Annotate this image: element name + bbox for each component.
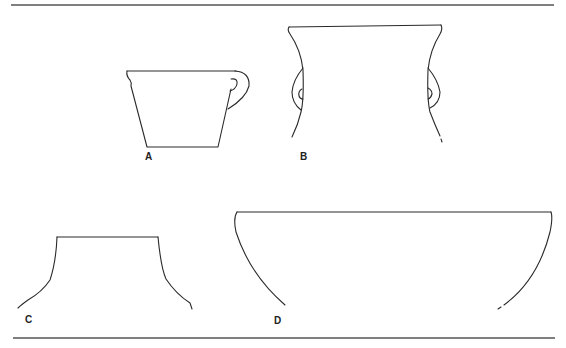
vessel-c-drawing	[18, 237, 192, 309]
vessel-d-drawing	[235, 212, 552, 309]
vessel-b-label: B	[300, 152, 307, 162]
figure-drawing	[0, 0, 566, 348]
vessel-c-label: C	[25, 315, 32, 325]
vessel-b-drawing	[288, 25, 442, 142]
vessel-a-label: A	[145, 152, 152, 162]
vessel-a-drawing	[127, 71, 249, 147]
vessel-figure: A B C D	[0, 0, 566, 348]
vessel-d-label: D	[274, 316, 281, 326]
